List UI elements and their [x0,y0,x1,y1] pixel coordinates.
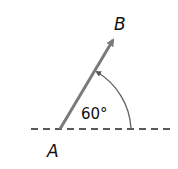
angle-label: 60° [81,105,108,123]
vector-diagram: B A 60° [0,0,178,169]
point-a-label: A [46,141,59,161]
point-b-label: B [114,14,126,34]
